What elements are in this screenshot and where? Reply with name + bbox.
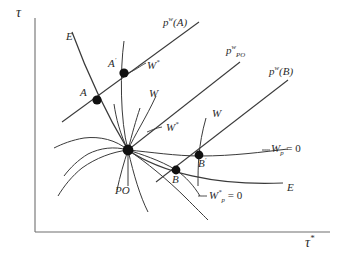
label-Wp-zero: Wp = 0	[271, 143, 301, 154]
point-label-Aprime: A′	[108, 58, 116, 69]
label-E-upper: E	[66, 31, 73, 42]
y-axis-label: τ	[16, 6, 21, 20]
diagram-canvas: τ τ* pw(A) pwPO pw(B) E E W* W W* W PO W…	[0, 0, 345, 264]
curve-Wstar-p-zero	[128, 150, 208, 220]
leader-lines-group	[128, 63, 270, 196]
x-axis-label: τ*	[305, 236, 314, 250]
label-pw-B: pw(B)	[269, 66, 293, 77]
leader-W-star-Aprime	[128, 63, 146, 73]
label-pw-PO: pwPO	[226, 45, 245, 56]
point-label-B: B	[172, 174, 179, 185]
label-PO: PO	[115, 185, 130, 196]
leader-W-star-mid	[147, 127, 162, 132]
label-W-star-upper: W*	[147, 60, 160, 71]
label-pw-A: pw(A)	[163, 17, 187, 28]
label-W-star-middle: W*	[166, 122, 179, 133]
label-W-upper: W	[149, 88, 158, 99]
point-label-A: A	[80, 87, 87, 98]
point-A-marker	[92, 95, 101, 104]
point-label-Bprime: B′	[198, 158, 206, 169]
point-PO-marker	[123, 145, 134, 156]
label-W-right: W	[212, 108, 221, 119]
curve-up-right-steep	[128, 108, 140, 150]
point-Aprime-marker	[119, 68, 128, 77]
price-line-pw-PO	[128, 62, 240, 150]
label-Wstar-p-zero: W*p = 0	[209, 190, 242, 201]
label-E-lower: E	[287, 182, 294, 193]
